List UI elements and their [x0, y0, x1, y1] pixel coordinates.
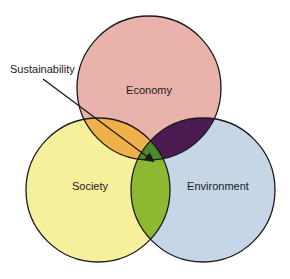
venn-diagram: Sustainability Economy Society Environme… — [0, 0, 290, 279]
society-label: Society — [72, 180, 109, 192]
sustainability-label: Sustainability — [10, 63, 75, 75]
economy-label: Economy — [126, 84, 172, 96]
environment-label: Environment — [187, 180, 249, 192]
